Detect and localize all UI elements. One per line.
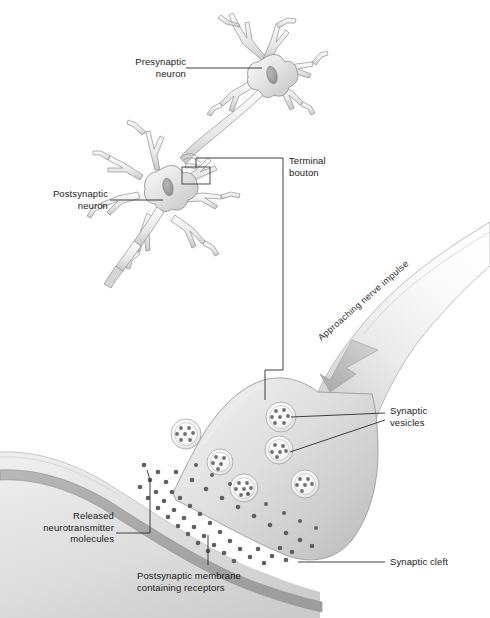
label-postsynaptic-neuron: Postsynaptic neuron [22,188,108,211]
label-presynaptic-neuron: Presynaptic neuron [106,56,186,79]
label-synaptic-vesicles: Synaptic vesicles [390,405,427,428]
vesicle [171,419,201,449]
label-synaptic-cleft: Synaptic cleft [390,556,448,568]
label-postsynaptic-membrane: Postsynaptic membrane containing recepto… [137,570,241,593]
figure-canvas: Presynaptic neuron Postsynaptic neuron T… [0,0,490,618]
vesicle [207,449,233,475]
label-released-neurotransmitter-molecules: Released neurotransmitter molecules [32,510,114,545]
label-terminal-bouton: Terminal bouton [289,155,326,178]
vesicle [230,474,258,502]
presynaptic-neuron [180,13,328,174]
vesicle [291,470,319,498]
postsynaptic-neuron [87,120,240,288]
vesicle [265,436,293,464]
postsynaptic-axon-3 [104,266,123,288]
